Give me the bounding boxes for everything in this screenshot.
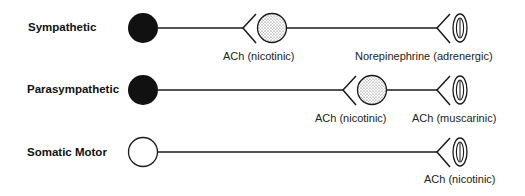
- caption-parasympathetic-ganglion: ACh (nicotinic): [315, 112, 387, 124]
- caption-sympathetic-ganglion: ACh (nicotinic): [223, 50, 295, 62]
- row-parasympathetic: [128, 75, 467, 105]
- soma-filled-icon: [128, 75, 158, 105]
- caption-sympathetic-effector: Norepinephrine (adrenergic): [355, 50, 493, 62]
- effector-receptor-icon: [437, 14, 467, 43]
- row-somatic-motor: [129, 138, 468, 168]
- soma-filled-icon: [128, 13, 158, 43]
- effector-receptor-icon: [437, 76, 467, 105]
- effector-receptor-icon: [437, 138, 467, 167]
- row-sympathetic: [128, 13, 467, 43]
- caption-somatic-effector: ACh (nicotinic): [424, 173, 496, 185]
- label-parasympathetic: Parasympathetic: [27, 83, 119, 95]
- ganglion-synapse-icon: [343, 76, 387, 106]
- caption-parasympathetic-effector: ACh (muscarinic): [412, 112, 496, 124]
- label-somatic-motor: Somatic Motor: [27, 146, 107, 158]
- soma-open-icon: [129, 138, 158, 167]
- ganglion-synapse-icon: [243, 14, 287, 44]
- label-sympathetic: Sympathetic: [28, 21, 96, 33]
